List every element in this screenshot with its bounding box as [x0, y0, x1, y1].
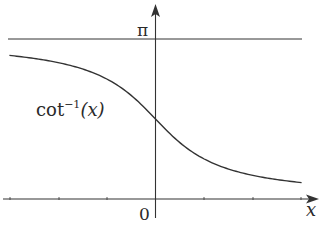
x-axis-label: x — [306, 199, 316, 220]
curve-label: cot−1(x) — [36, 98, 105, 120]
chart-canvas: π 0 x cot−1(x) — [0, 0, 330, 236]
pi-label: π — [137, 20, 148, 40]
curve-label-name: cot — [36, 99, 65, 120]
curve-label-sup: −1 — [64, 98, 80, 111]
curve-label-arg: (x) — [80, 99, 104, 120]
origin-label: 0 — [139, 204, 150, 224]
